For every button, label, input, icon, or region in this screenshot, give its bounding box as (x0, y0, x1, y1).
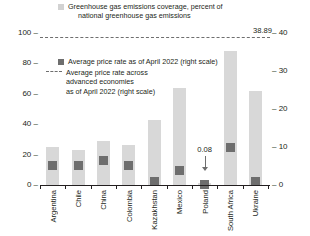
price-marker-china (99, 156, 108, 165)
x-axis-line (40, 185, 270, 186)
y-axis-right-tick-10: – 10 (272, 142, 288, 151)
y-axis-right-tick-40: – 40 (272, 28, 288, 37)
x-axis-label-south-africa: South Africa (226, 190, 235, 231)
x-axis-tick (268, 185, 269, 189)
bar-kazakhstan (148, 120, 161, 185)
legend-entry-coverage: Greenhouse gas emissions coverage, perce… (58, 2, 288, 21)
x-axis-tick (141, 185, 142, 189)
y-axis-left-tick-80: 80 – (0, 58, 38, 67)
price-marker-colombia (124, 161, 133, 170)
y-axis-right-tick-30: – 30 (272, 66, 288, 75)
y-axis-right-tick-20: – 20 (272, 104, 288, 113)
x-axis-tick (65, 185, 66, 189)
x-axis-label-kazakhstan: Kazakhstan (150, 190, 159, 230)
x-axis-label-argentina: Argentina (49, 190, 58, 223)
y-axis-left-tick-20: 20 – (0, 150, 38, 159)
bar-ukraine (249, 91, 262, 185)
arrow-head (202, 167, 208, 171)
x-axis-label-poland: Poland (201, 190, 210, 214)
price-marker-south-africa (226, 143, 235, 152)
x-axis-tick (116, 185, 117, 189)
x-axis-label-mexico: Mexico (175, 190, 184, 214)
x-axis-label-colombia: Colombia (125, 190, 134, 222)
y-axis-left-tick-0: 0 – (0, 180, 38, 189)
legend-swatch-coverage (58, 4, 64, 10)
x-axis-label-china: China (99, 190, 108, 210)
reference-line-advanced-economies (40, 37, 270, 38)
x-axis-label-ukraine: Ukraine (251, 190, 260, 216)
x-axis-tick (192, 185, 193, 189)
x-axis-label-chile: Chile (74, 190, 83, 207)
x-axis-tick (217, 185, 218, 189)
x-axis-tick (167, 185, 168, 189)
price-marker-argentina (48, 161, 57, 170)
price-marker-chile (74, 161, 83, 170)
y-axis-left-tick-40: 40 – (0, 119, 38, 128)
x-axis-tick (91, 185, 92, 189)
bar-south-africa (224, 51, 237, 185)
x-axis-tick (243, 185, 244, 189)
annotation-poland-value: 0.08 (191, 145, 219, 154)
legend-label-coverage-line2: national greenhouse gas emissions (78, 11, 288, 20)
y-axis-left-tick-100: 100 – (0, 28, 38, 37)
x-axis-tick (40, 185, 41, 189)
y-axis-right-tick-0: – 0 (272, 180, 283, 189)
legend-label-coverage-line1: Greenhouse gas emissions coverage, perce… (68, 2, 223, 11)
chart-container: Greenhouse gas emissions coverage, perce… (0, 0, 310, 236)
reference-line-value-label: 38.89 (253, 26, 272, 35)
plot-area: 38.89 0.08 (40, 33, 268, 185)
price-marker-mexico (175, 166, 184, 175)
y-axis-left-tick-60: 60 – (0, 89, 38, 98)
